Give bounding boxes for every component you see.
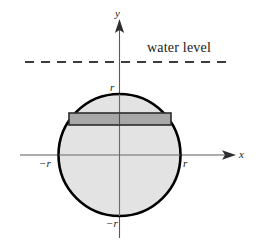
x-axis-label: x [239, 149, 244, 160]
diagram-figure: y x r −r r −r water level [0, 0, 256, 242]
water-level-label: water level [147, 41, 211, 55]
radius-top-label: r [110, 82, 114, 93]
radius-right-label: r [183, 158, 187, 169]
y-axis-label: y [115, 8, 120, 19]
diagram-canvas [0, 0, 256, 242]
radius-bottom-label: −r [106, 218, 118, 229]
radius-left-label: −r [39, 158, 51, 169]
